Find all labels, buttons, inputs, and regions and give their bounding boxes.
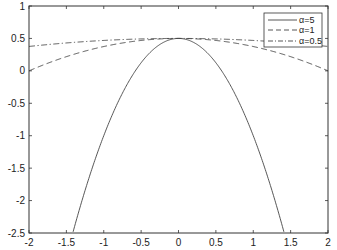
y-tick-label: -2.5 — [8, 228, 26, 239]
x-tick-label: -1.5 — [58, 237, 76, 248]
y-tick-label: -1 — [16, 130, 25, 141]
y-tick-label: -0.5 — [8, 98, 26, 109]
legend-label: α=5 — [299, 15, 314, 25]
x-tick-label: 1.5 — [284, 237, 298, 248]
x-tick-label: -2 — [25, 237, 34, 248]
y-tick-label: 0.5 — [11, 33, 25, 44]
y-tick-label: -1.5 — [8, 163, 26, 174]
legend-label: α=0.5 — [299, 36, 322, 46]
x-tick-label: 0.5 — [209, 237, 223, 248]
y-tick-label: -2 — [16, 195, 25, 206]
x-tick-label: 2 — [325, 237, 331, 248]
y-tick-label: 0 — [19, 65, 25, 76]
plot-curves — [29, 38, 328, 231]
x-tick-label: -0.5 — [133, 237, 151, 248]
x-tick-label: -1 — [99, 237, 108, 248]
x-tick-label: 0 — [176, 237, 182, 248]
legend: α=5 α=1 α=0.5 — [264, 13, 322, 47]
series-line-solid — [73, 38, 284, 231]
y-tick-label: 1 — [19, 1, 25, 12]
legend-label: α=1 — [299, 25, 314, 35]
x-tick-label: 1 — [250, 237, 256, 248]
line-chart: -2-1.5-1-0.500.511.52-2.5-2-1.5-1-0.500.… — [0, 0, 337, 250]
